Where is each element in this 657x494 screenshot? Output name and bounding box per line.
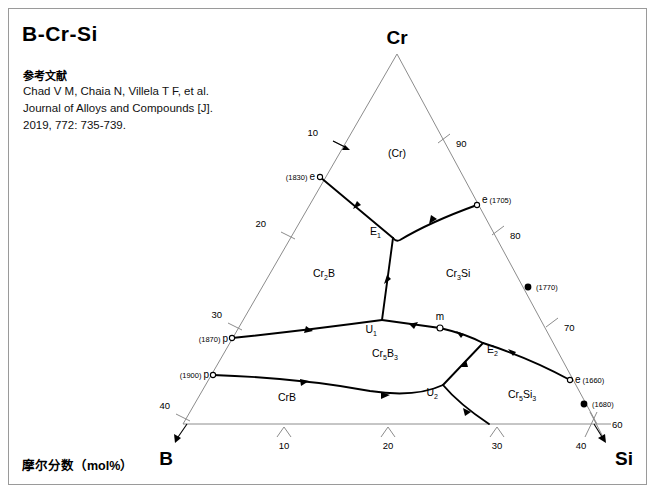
label-temp-1680: (1680) bbox=[592, 400, 614, 409]
tick-left-20: 20 bbox=[255, 218, 266, 229]
corner-arrow-si-head bbox=[598, 434, 606, 443]
label-temp-1870: (1870)p bbox=[199, 333, 229, 344]
edge-cr-b bbox=[183, 54, 397, 424]
point-e-1705 bbox=[474, 202, 479, 207]
tick-bottom-20: 20 bbox=[383, 440, 394, 451]
label-temp-1660: e(1660) bbox=[575, 374, 605, 385]
boundary-e1830-to-E1 bbox=[320, 177, 393, 238]
tick-left-40: 40 bbox=[159, 400, 170, 411]
label-temp-1770: (1770) bbox=[536, 283, 558, 292]
label-temp-1705: e(1705) bbox=[482, 194, 512, 205]
region-label-cr3si: Cr3Si bbox=[446, 267, 470, 281]
boundary-U2-to-bottom bbox=[443, 385, 489, 424]
boundary-E2-to-e1660 bbox=[483, 343, 570, 380]
corner-arrow-b-head bbox=[174, 434, 181, 443]
tick-left-30: 30 bbox=[211, 309, 222, 320]
region-label-cr5si3: Cr5Si3 bbox=[508, 388, 536, 402]
tick-right-70-mark bbox=[546, 318, 558, 327]
tick-bottom-30-mark bbox=[490, 427, 504, 437]
tick-bottom-10: 10 bbox=[279, 440, 290, 451]
tick-bottom-20-mark bbox=[381, 427, 395, 437]
point-label-E2: E2 bbox=[487, 343, 498, 357]
tick-right-70: 70 bbox=[564, 322, 575, 333]
label-temp-1900: (1900)p bbox=[180, 369, 210, 380]
region-label-cr: (Cr) bbox=[388, 147, 406, 159]
point-congruent-1680 bbox=[581, 401, 588, 408]
edge-cr-si bbox=[397, 54, 597, 424]
point-m-maximum bbox=[437, 325, 443, 331]
tick-right-80: 80 bbox=[510, 230, 521, 241]
point-label-U1: U1 bbox=[366, 323, 378, 337]
arrow-m-to-E2 bbox=[456, 331, 464, 338]
tick-bottom-40: 40 bbox=[576, 440, 587, 451]
point-p-1870 bbox=[229, 335, 234, 340]
point-e-1830 bbox=[317, 174, 322, 179]
diagram-page: B-Cr-Si 参考文献 Chad V M, Chaia N, Villela … bbox=[0, 0, 657, 494]
boundary-e1705-to-E1 bbox=[393, 205, 477, 241]
corner-label-cr: Cr bbox=[386, 27, 408, 48]
region-label-cr5b3: Cr5B3 bbox=[372, 347, 398, 361]
boundary-p1900-to-U2 bbox=[213, 375, 443, 393]
corner-label-b: B bbox=[159, 448, 173, 469]
point-congruent-1770 bbox=[525, 284, 532, 291]
tick-bottom-30: 30 bbox=[492, 440, 503, 451]
tick-left-10: 10 bbox=[307, 127, 318, 138]
label-temp-1830: (1830)e bbox=[286, 171, 316, 182]
point-p-1900 bbox=[210, 372, 215, 377]
tick-bottom-10-mark bbox=[277, 427, 291, 437]
corner-label-si: Si bbox=[615, 448, 633, 469]
point-e-1660 bbox=[567, 377, 572, 382]
tick-right-60: 60 bbox=[612, 419, 623, 430]
tick-right-90: 90 bbox=[456, 138, 467, 149]
region-label-cr2b: Cr2B bbox=[313, 267, 335, 281]
ternary-diagram: 10 20 30 40 90 80 70 60 10 20 30 40 bbox=[0, 0, 657, 494]
tick-right-80-mark bbox=[492, 226, 504, 235]
region-label-crb: CrB bbox=[278, 391, 296, 403]
point-label-m: m bbox=[436, 311, 444, 322]
